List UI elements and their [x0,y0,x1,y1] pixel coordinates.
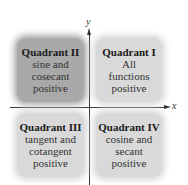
quadrant-iv-box: Quadrant IV cosine and secant positive [96,113,162,177]
y-axis-arrow-icon [87,28,91,35]
quadrant-text-line: positive [33,82,68,94]
quadrant-text-line: positive [112,82,147,94]
quadrant-title: Quadrant I [102,46,156,58]
quadrant-text-line: cosine and [106,133,153,145]
x-axis-label: x [172,100,176,111]
quadrant-text-line: positive [112,157,147,169]
quadrant-text-line: sine and [32,58,68,70]
quadrant-title: Quadrant II [22,46,80,58]
quadrant-text-line: positive [33,157,68,169]
quadrant-text-line: cotangent [29,145,72,157]
quadrant-text-line: cosecant [32,70,70,82]
quadrant-iii-box: Quadrant III tangent and cotangent posit… [17,113,84,177]
quadrant-text-line: functions [109,70,150,82]
y-axis [89,32,90,185]
y-axis-label: y [86,16,90,27]
quadrant-title: Quadrant III [19,121,81,133]
quadrant-text-line: tangent and [25,133,76,145]
quadrant-text-line: secant [115,145,142,157]
quadrant-i-box: Quadrant I All functions positive [96,38,162,102]
x-axis-arrow-icon [164,105,171,109]
quadrant-text-line: All [122,58,136,70]
quadrant-title: Quadrant IV [98,121,159,133]
quadrant-ii-box: Quadrant II sine and cosecant positive [17,38,84,102]
